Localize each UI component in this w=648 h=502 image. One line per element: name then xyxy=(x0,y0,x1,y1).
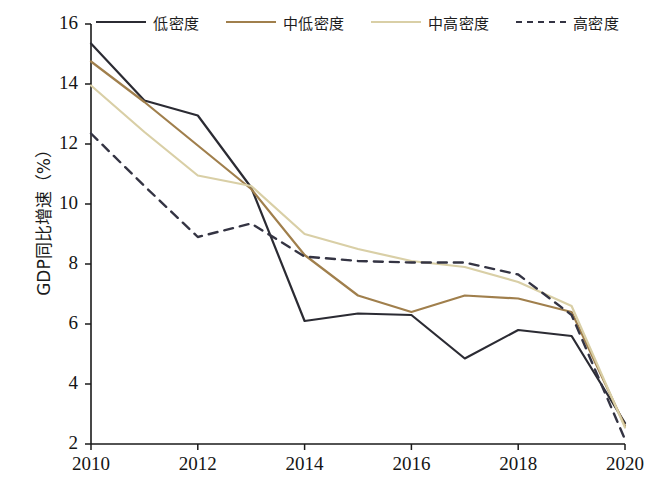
y-tick-label: 12 xyxy=(44,132,78,154)
y-tick-label: 16 xyxy=(44,12,78,34)
x-tick-label: 2010 xyxy=(59,453,123,475)
y-tick-label: 6 xyxy=(44,312,78,334)
x-tick-label: 2012 xyxy=(166,453,230,475)
x-tick-label: 2014 xyxy=(273,453,337,475)
x-tick-label: 2016 xyxy=(379,453,443,475)
series-line-3 xyxy=(91,134,625,440)
y-tick-label: 4 xyxy=(44,372,78,394)
axes-group xyxy=(91,24,625,444)
y-tick-label: 2 xyxy=(44,432,78,454)
tick-marks-group xyxy=(85,24,625,450)
x-tick-label: 2018 xyxy=(486,453,550,475)
y-tick-label: 8 xyxy=(44,252,78,274)
y-tick-label: 14 xyxy=(44,72,78,94)
series-line-2 xyxy=(91,86,625,428)
series-line-0 xyxy=(91,44,625,424)
x-tick-label: 2020 xyxy=(593,453,648,475)
y-tick-label: 10 xyxy=(44,192,78,214)
series-group xyxy=(91,44,625,440)
series-line-1 xyxy=(91,62,625,427)
